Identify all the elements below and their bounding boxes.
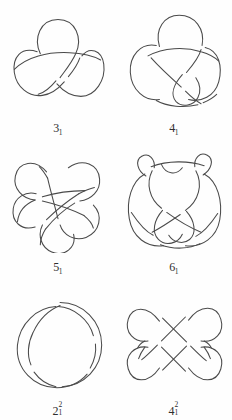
knot-label-six-one: 61: [169, 261, 179, 273]
knot-cell-solomon-link: 421: [116, 285, 232, 420]
knot-label-subscript: 1: [175, 409, 179, 417]
knot-label-cinquefoil: 51: [53, 261, 63, 273]
knot-cell-cinquefoil: 51: [0, 145, 116, 285]
knot-label-subscript: 1: [175, 267, 179, 276]
solomon-seal-link-diagram: [122, 291, 226, 395]
knot-label-subscript: 1: [175, 128, 179, 137]
knot-cell-figure-eight: 41: [116, 0, 232, 145]
trefoil-knot-diagram: [6, 8, 110, 112]
figure-eight-knot-diagram: [122, 8, 226, 112]
stevedore-knot-diagram: [122, 149, 226, 253]
knot-label-affixes: 21: [175, 403, 180, 415]
knot-label-hopf-link: 221: [53, 403, 64, 417]
knot-grid: 31: [0, 0, 232, 420]
knot-label-subscript: 1: [59, 409, 63, 417]
knot-label-affixes: 21: [59, 403, 64, 415]
knot-label-trefoil: 31: [53, 122, 63, 134]
knot-label-solomon-link: 421: [169, 403, 180, 417]
knot-cell-hopf-link: 221: [0, 285, 116, 420]
cinquefoil-knot-diagram: [6, 149, 110, 253]
knot-cell-trefoil: 31: [0, 0, 116, 145]
cinquefoil-lobe-group: [13, 163, 100, 253]
knot-table-sheet: 31: [0, 0, 232, 420]
knot-label-figure-eight: 41: [169, 122, 179, 134]
knot-cell-six-one: 61: [116, 145, 232, 285]
knot-label-subscript: 1: [59, 267, 63, 276]
knot-label-subscript: 1: [59, 128, 63, 137]
hopf-link-diagram: [6, 291, 110, 395]
